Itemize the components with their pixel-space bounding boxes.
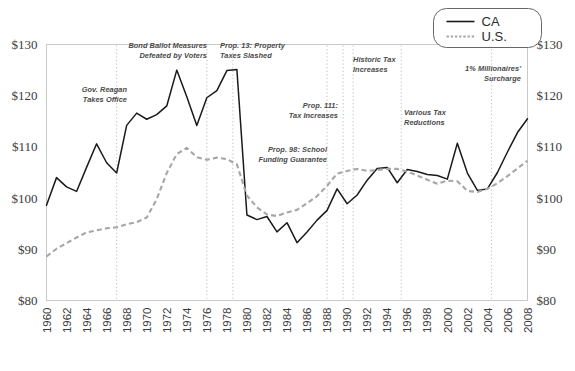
x-tick-1984: 1984 bbox=[281, 307, 293, 333]
x-axis-labels: 1960196219641966196819701972197419761978… bbox=[41, 307, 534, 333]
y-tick-left-80: $80 bbox=[18, 293, 38, 308]
x-tick-1978: 1978 bbox=[221, 308, 233, 334]
x-tick-2000: 2000 bbox=[442, 308, 454, 334]
annotation-label-line: Gov. Reagan bbox=[82, 85, 128, 94]
x-tick-1980: 1980 bbox=[241, 308, 253, 334]
x-tick-1968: 1968 bbox=[121, 308, 133, 334]
x-tick-1990: 1990 bbox=[341, 308, 353, 334]
annotation-label-line: Defeated by Voters bbox=[139, 51, 207, 60]
x-tick-1962: 1962 bbox=[61, 308, 73, 334]
annotation-label-line: Prop. 13: Property bbox=[220, 41, 286, 50]
annotation-label-bond-ballot-measures: Bond Ballot MeasuresDefeated by Voters bbox=[128, 41, 207, 60]
legend-label-ca: CA bbox=[482, 14, 500, 29]
x-tick-2008: 2008 bbox=[522, 308, 534, 334]
x-tick-2004: 2004 bbox=[482, 307, 494, 333]
y-tick-left-130: $130 bbox=[12, 37, 38, 52]
x-tick-1960: 1960 bbox=[41, 308, 53, 334]
chart-root: $80$80$90$90$100$100$110$110$120$120$130… bbox=[0, 0, 575, 371]
plot-area-frame bbox=[47, 45, 528, 301]
x-tick-1998: 1998 bbox=[421, 308, 433, 334]
x-tick-1986: 1986 bbox=[301, 308, 313, 334]
y-tick-right-110: $110 bbox=[537, 139, 563, 154]
annotation-label-line: Takes Office bbox=[83, 95, 127, 104]
annotation-label-gov-reagan-takes-office: Gov. ReaganTakes Office bbox=[82, 85, 128, 104]
x-tick-1966: 1966 bbox=[101, 308, 113, 334]
x-tick-2002: 2002 bbox=[462, 308, 474, 334]
annotation-label-various-tax-reductions: Various TaxReductions bbox=[404, 108, 447, 127]
line-chart: $80$80$90$90$100$100$110$110$120$120$130… bbox=[0, 0, 575, 371]
annotation-label-line: 1% Millionaires' bbox=[465, 64, 521, 73]
y-tick-right-100: $100 bbox=[537, 191, 563, 206]
annotation-label-line: Increases bbox=[353, 65, 388, 74]
annotation-label-line: Bond Ballot Measures bbox=[128, 41, 207, 50]
annotation-label-line: Reductions bbox=[404, 118, 445, 127]
y-tick-left-100: $100 bbox=[12, 191, 38, 206]
annotation-label-line: Prop. 98: School bbox=[268, 145, 328, 154]
x-tick-1974: 1974 bbox=[181, 307, 193, 333]
x-tick-1964: 1964 bbox=[81, 307, 93, 333]
annotation-label-prop-98-school-funding-guarantee: Prop. 98: SchoolFunding Guarantee bbox=[258, 145, 327, 164]
annotation-label-line: Taxes Slashed bbox=[220, 51, 272, 60]
y-tick-left-110: $110 bbox=[12, 139, 38, 154]
annotation-label-line: Historic Tax bbox=[353, 55, 396, 64]
annotation-label-line: Surcharge bbox=[484, 74, 521, 83]
x-tick-1994: 1994 bbox=[381, 307, 393, 333]
annotation-label-line: Various Tax bbox=[404, 108, 447, 117]
x-tick-1976: 1976 bbox=[201, 308, 213, 334]
y-tick-right-90: $90 bbox=[537, 242, 557, 257]
legend-label-us: U.S. bbox=[482, 29, 507, 44]
annotation-label-line: Prop. 111: bbox=[303, 101, 339, 110]
y-tick-right-120: $120 bbox=[537, 88, 563, 103]
x-tick-1992: 1992 bbox=[361, 308, 373, 334]
x-tick-1972: 1972 bbox=[161, 308, 173, 334]
annotation-label-line: Funding Guarantee bbox=[258, 155, 327, 164]
x-tick-1982: 1982 bbox=[261, 308, 273, 334]
y-tick-right-80: $80 bbox=[537, 293, 557, 308]
annotation-label-line: Tax Increases bbox=[289, 111, 338, 120]
x-tick-1996: 1996 bbox=[401, 308, 413, 334]
x-tick-1988: 1988 bbox=[321, 308, 333, 334]
legend: CAU.S. bbox=[434, 9, 542, 48]
x-tick-1970: 1970 bbox=[141, 308, 153, 334]
x-tick-2006: 2006 bbox=[502, 308, 514, 334]
y-tick-left-120: $120 bbox=[12, 88, 38, 103]
y-tick-left-90: $90 bbox=[18, 242, 38, 257]
